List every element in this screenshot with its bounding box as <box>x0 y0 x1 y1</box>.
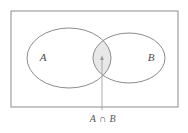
venn-diagram-figure: A B A ∩ B <box>0 0 188 133</box>
set-a-label: A <box>39 51 47 63</box>
set-b-label: B <box>148 51 155 63</box>
venn-diagram-canvas: A B A ∩ B <box>0 0 188 133</box>
intersection-caption: A ∩ B <box>89 113 116 124</box>
